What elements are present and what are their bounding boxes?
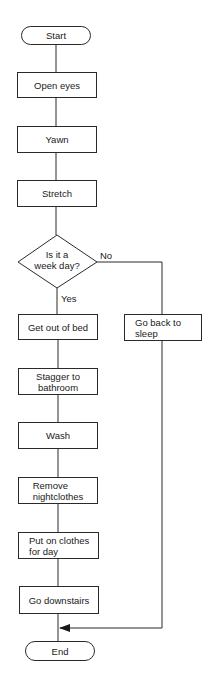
end-label: End bbox=[52, 646, 69, 657]
arrowhead-icon bbox=[59, 624, 70, 632]
step-label-line-2: sleep bbox=[135, 328, 181, 339]
step-label-line-1: Go back to bbox=[135, 317, 181, 328]
decision-line-1: Is it a bbox=[27, 249, 87, 260]
step-label: Yawn bbox=[45, 134, 68, 145]
step-wash: Wash bbox=[18, 422, 98, 449]
step-remove-nightclothes: Removenightclothes bbox=[18, 477, 98, 504]
decision-line-2: week day? bbox=[27, 260, 87, 271]
step-label-line-2: nightclothes bbox=[33, 491, 84, 502]
step-go-back-to-sleep: Go back tosleep bbox=[124, 314, 202, 341]
step-label-line-1: Stagger to bbox=[36, 371, 80, 382]
step-get-out-of-bed: Get out of bed bbox=[18, 314, 98, 340]
start-label: Start bbox=[46, 30, 66, 41]
step-stretch: Stretch bbox=[17, 180, 97, 207]
step-go-downstairs: Go downstairs bbox=[19, 586, 99, 614]
step-yawn: Yawn bbox=[17, 126, 97, 153]
start-terminal: Start bbox=[21, 26, 91, 45]
step-open-eyes: Open eyes bbox=[17, 72, 97, 98]
step-stagger-to-bathroom: Stagger tobathroom bbox=[18, 368, 98, 395]
step-label: Get out of bed bbox=[28, 322, 88, 333]
step-label-line-1: Remove bbox=[33, 480, 84, 491]
step-label-line-1: Put on clothes bbox=[29, 535, 89, 546]
end-terminal: End bbox=[25, 641, 95, 661]
no-label: No bbox=[100, 250, 112, 261]
step-label-line-2: for day bbox=[29, 546, 89, 557]
step-label: Stretch bbox=[42, 188, 72, 199]
step-label: Go downstairs bbox=[29, 595, 90, 606]
step-label: Wash bbox=[46, 430, 70, 441]
decision-text: Is it a week day? bbox=[27, 249, 87, 271]
step-put-on-clothes: Put on clothesfor day bbox=[18, 532, 99, 559]
step-label-line-2: bathroom bbox=[36, 382, 80, 393]
step-label: Open eyes bbox=[34, 80, 80, 91]
yes-label: Yes bbox=[61, 293, 77, 304]
